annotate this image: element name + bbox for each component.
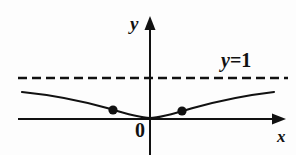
y-axis-arrow-icon: [145, 16, 156, 30]
asymptote-label-variable: y: [221, 49, 230, 71]
asymptote-label: y=1: [221, 50, 251, 70]
graph-canvas: [0, 0, 296, 155]
function-curve: [22, 92, 274, 118]
right-marked-point: [177, 106, 186, 115]
graph-figure: y x 0 y=1: [0, 0, 296, 155]
y-axis-label: y: [130, 14, 138, 33]
left-marked-point: [108, 105, 117, 114]
asymptote-label-value: 1: [241, 49, 251, 71]
origin-label: 0: [135, 120, 145, 140]
x-axis-arrow-icon: [272, 114, 286, 125]
x-axis-label: x: [277, 128, 286, 145]
asymptote-label-equals: =: [230, 49, 241, 71]
